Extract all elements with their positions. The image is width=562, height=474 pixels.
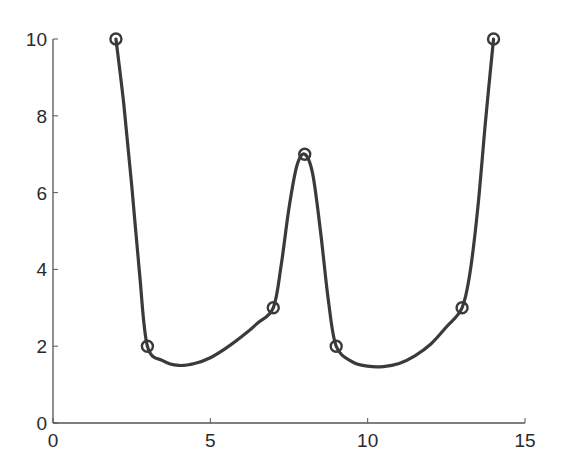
y-tick-label: 10: [26, 29, 47, 50]
x-tick-label: 5: [205, 430, 216, 451]
y-tick-label: 0: [36, 413, 47, 434]
curve-path: [116, 39, 494, 367]
y-tick-label: 4: [36, 259, 47, 280]
interpolated-curve: [116, 39, 494, 367]
axes: 0510150246810: [26, 29, 536, 451]
line-chart: 0510150246810: [0, 0, 562, 474]
x-tick-label: 0: [48, 430, 59, 451]
x-tick-label: 15: [514, 430, 535, 451]
y-tick-label: 6: [36, 183, 47, 204]
y-tick-label: 8: [36, 106, 47, 127]
x-tick-label: 10: [357, 430, 378, 451]
y-tick-label: 2: [36, 336, 47, 357]
data-point-markers: [110, 34, 499, 352]
